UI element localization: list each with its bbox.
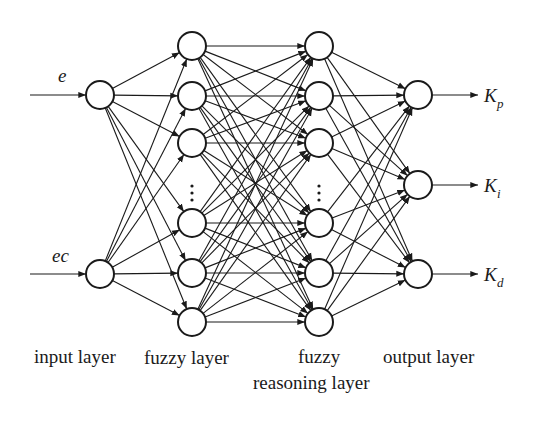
layer-label-reasoning-line1: fuzzy (298, 346, 341, 367)
fuzzy-node-5 (178, 259, 206, 287)
svg-text:p: p (496, 96, 504, 111)
fuzzy-node-2 (178, 82, 206, 110)
fuzzy-node-6 (178, 308, 206, 336)
output-label-kd: K d (483, 264, 504, 290)
edge-reasoning-output (333, 95, 404, 96)
layer-label-fuzzy: fuzzy layer (144, 347, 230, 368)
input-label-e: e (58, 65, 66, 86)
edge-input-fuzzy (114, 273, 178, 274)
edge-reasoning-output (333, 273, 404, 274)
edge-input-fuzzy (114, 95, 178, 96)
edge-input-fuzzy (112, 280, 179, 315)
output-node-Kp (404, 81, 432, 109)
output-label-kp: K p (483, 85, 504, 111)
edge-reasoning-output (328, 106, 410, 212)
fuzzy-node-3 (178, 129, 206, 157)
reasoning-node-4 (305, 209, 333, 237)
layer-label-output: output layer (383, 346, 475, 367)
svg-text:K: K (483, 85, 498, 106)
fuzzy-neural-network-diagram: e ec K p K i K d input layer fuzzy layer… (0, 0, 535, 421)
edge-reasoning-output (325, 59, 413, 261)
svg-text:d: d (497, 275, 504, 290)
edge-input-fuzzy (112, 230, 180, 267)
nodes (86, 32, 432, 336)
edge-reasoning-output (332, 52, 406, 89)
reasoning-node-1 (305, 32, 333, 60)
layer-label-reasoning-line2: reasoning layer (253, 372, 370, 393)
output-label-ki: K i (483, 175, 501, 201)
edge-reasoning-output (325, 108, 413, 309)
edge-reasoning-output (332, 280, 406, 316)
ellipsis-markers (190, 184, 320, 201)
fuzzy-layer-ellipsis (190, 184, 193, 201)
edge-reasoning-output (327, 196, 410, 310)
edge-input-fuzzy (112, 101, 179, 136)
output-node-Kd (404, 260, 432, 288)
input-label-ec: ec (52, 245, 69, 266)
edge-input-fuzzy (108, 154, 184, 262)
reasoning-node-3 (305, 129, 333, 157)
edge-reasoning-output (332, 101, 406, 137)
svg-text:i: i (497, 186, 501, 201)
input-node-e (86, 81, 114, 109)
layer-label-input: input layer (34, 346, 116, 367)
edge-reasoning-output (331, 229, 405, 267)
reasoning-node-2 (305, 82, 333, 110)
reasoning-node-5 (305, 259, 333, 287)
svg-text:K: K (483, 264, 498, 285)
fuzzy-node-1 (178, 32, 206, 60)
reasoning-node-6 (305, 308, 333, 336)
fuzzy-node-4 (178, 209, 206, 237)
edge-reasoning-output (327, 57, 410, 173)
input-node-ec (86, 260, 114, 288)
edge-input-fuzzy (105, 59, 187, 261)
edge-reasoning-output (332, 190, 405, 218)
edge-input-fuzzy (112, 53, 179, 89)
svg-text:K: K (483, 175, 498, 196)
output-node-Ki (404, 171, 432, 199)
reasoning-layer-ellipsis (317, 184, 320, 201)
